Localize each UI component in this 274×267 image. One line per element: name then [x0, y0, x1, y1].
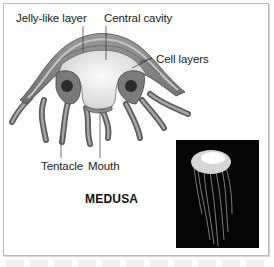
truncated-caption-line [6, 260, 268, 267]
jellyfish-photo-art [176, 140, 259, 248]
label-cell-layers: Cell layers [156, 54, 209, 66]
figure-title: MEDUSA [85, 193, 138, 205]
label-jelly-layer: Jelly-like layer [16, 13, 87, 25]
medusa-illustration [0, 0, 274, 267]
label-central-cavity: Central cavity [104, 13, 172, 25]
label-mouth: Mouth [88, 161, 119, 173]
label-tentacle: Tentacle [41, 161, 83, 173]
